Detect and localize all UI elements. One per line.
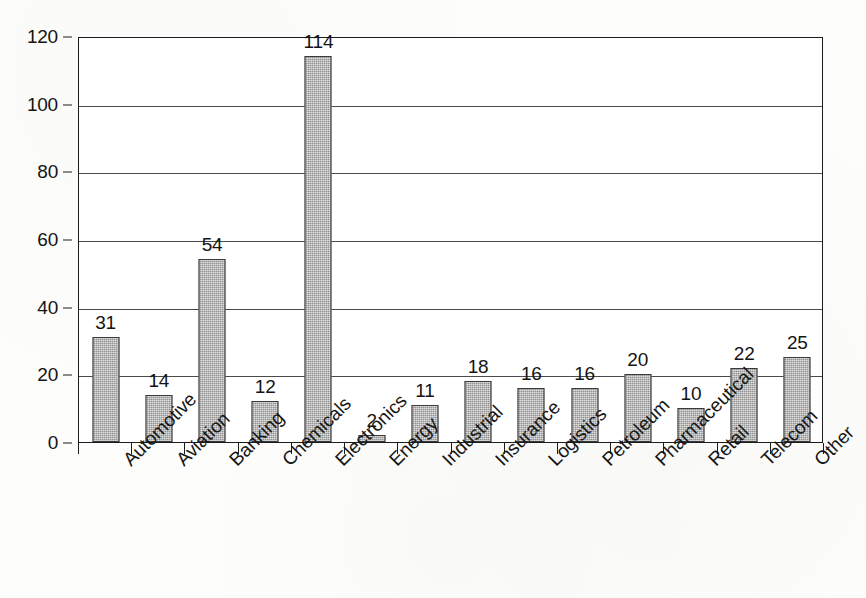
bar-group: 18 [452,38,505,442]
bar-value-label: 25 [787,332,808,354]
y-tick-label: 0 [48,432,58,454]
x-tick-mark [78,443,79,454]
y-tick-label: 100 [27,94,58,116]
bar-group: 31 [79,38,132,442]
y-tick-label: 20 [37,364,58,386]
bar-group: 20 [611,38,664,442]
bar-value-label: 11 [415,380,434,402]
x-axis-category-label: Electronics [331,455,347,471]
bar-group: 10 [664,38,717,442]
x-axis-category-label: Petroleum [598,455,614,471]
bar-group: 16 [558,38,611,442]
y-tick-mark [63,172,72,173]
x-axis-category-label: Automotive [119,455,135,471]
bar [305,56,332,442]
plot-area: 3114541211421118161620102225 [78,37,823,443]
x-axis-category-label: Insurance [491,455,507,471]
bar-value-label: 54 [202,234,223,256]
x-axis-category-label: Industrial [438,455,454,471]
bar-value-label: 20 [627,349,648,371]
bar-value-label: 14 [148,370,169,392]
x-axis-category-label: Chemicals [278,455,294,471]
y-tick-label: 120 [27,26,58,48]
bar-group: 114 [292,38,345,442]
y-tick-mark [63,37,72,38]
x-axis-category-label: Banking [225,455,241,471]
y-axis: 020406080100120 [0,37,72,443]
x-axis-category-label: Retail [704,455,720,471]
bar-group: 25 [771,38,824,442]
bar-value-label: 22 [734,343,755,365]
x-axis-category-label: Telecom [757,455,773,471]
y-tick-mark [63,104,72,105]
bar-value-label: 16 [574,363,595,385]
bar-value-label: 114 [304,31,334,53]
y-tick-mark [63,240,72,241]
y-tick-mark [63,443,72,444]
bar-value-label: 12 [255,376,276,398]
y-tick-mark [63,307,72,308]
x-axis-category-label: Energy [385,455,401,471]
x-axis-category-label: Aviation [172,455,188,471]
bar-group: 16 [505,38,558,442]
x-axis-category-label: Other [810,455,826,471]
bar-value-label: 16 [521,363,542,385]
x-axis-category-label: Pharmaceutical [651,455,667,471]
bar-value-label: 31 [95,312,116,334]
x-axis-labels: AutomotiveAviationBankingChemicalsElectr… [78,455,823,595]
x-axis-category-label: Logistics [544,455,560,471]
bar-value-label: 18 [468,356,489,378]
bar-group: 54 [185,38,238,442]
y-tick-label: 40 [37,297,58,319]
y-tick-mark [63,375,72,376]
bar-group: 14 [132,38,185,442]
bar-group: 12 [239,38,292,442]
y-tick-label: 60 [37,229,58,251]
bar-value-label: 10 [681,383,702,405]
y-tick-label: 80 [37,161,58,183]
bar-group: 2 [345,38,398,442]
bar-chart: 020406080100120 311454121142111816162010… [0,0,866,598]
bar [92,337,119,442]
bar-group: 11 [398,38,451,442]
